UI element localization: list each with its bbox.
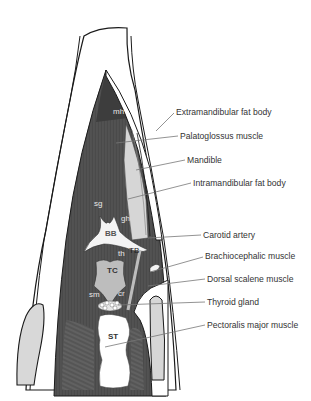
abbr-sm: sm <box>89 290 100 299</box>
label-brachiocephalic-muscle: Brachiocephalic muscle <box>205 251 295 261</box>
label-palatoglossus-muscle: Palatoglossus muscle <box>180 131 263 141</box>
right-shoulder-light <box>150 296 165 380</box>
thyroid-gland-shape <box>98 301 122 311</box>
label-carotid-artery: Carotid artery <box>203 230 256 240</box>
abbr-cr: cr <box>118 289 125 298</box>
anatomy-diagram: mh sg gh BB TB th TC sm cr ST Extramandi… <box>0 0 311 401</box>
abbr-sg: sg <box>94 199 102 208</box>
label-dorsal-scalene-muscle: Dorsal scalene muscle <box>207 274 294 284</box>
abbr-mh: mh <box>113 107 124 116</box>
label-mandible: Mandible <box>187 155 222 165</box>
abbr-st: ST <box>108 332 118 341</box>
abbr-th: th <box>118 249 125 258</box>
abbr-gh: gh <box>121 214 130 223</box>
right-forelimb <box>234 304 259 385</box>
label-thyroid-gland: Thyroid gland <box>207 297 259 307</box>
label-extramandibular-fat-body: Extramandibular fat body <box>176 107 272 117</box>
abbr-tb: TB <box>129 246 139 255</box>
pectoral-left <box>62 320 94 390</box>
pectoral-right <box>130 328 144 390</box>
sternum <box>98 314 130 388</box>
abbr-bb: BB <box>105 229 117 238</box>
abbr-tc: TC <box>107 266 118 275</box>
label-intramandibular-fat-body: Intramandibular fat body <box>193 178 286 188</box>
label-pectoralis-major-muscle: Pectoralis major muscle <box>207 320 298 330</box>
labels: Extramandibular fat body Palatoglossus m… <box>176 107 298 330</box>
